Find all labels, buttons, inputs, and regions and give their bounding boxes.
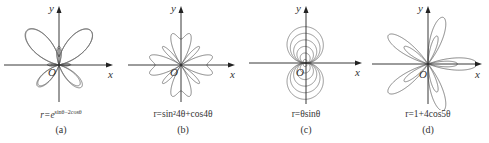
y-axis-label: y: [171, 2, 176, 14]
y-axis-arrow-icon: [179, 6, 184, 13]
polar-plot-b: [122, 0, 244, 110]
x-axis-arrow-icon: [475, 62, 482, 67]
x-axis-arrow-icon: [228, 63, 235, 68]
caption-b: (b): [122, 124, 244, 135]
formula-c: r=θsinθ: [245, 109, 367, 119]
axes-a: [4, 6, 113, 102]
formula-b: r=sin²4θ+cos4θ: [122, 109, 244, 119]
axes-c: [249, 6, 362, 104]
panel-b: y x O r=sin²4θ+cos4θ (b): [122, 0, 244, 143]
y-axis-arrow-icon: [304, 6, 309, 13]
formula-exponent: sinθ−2cosθ: [55, 109, 82, 115]
polar-plot-a: [0, 0, 122, 110]
caption-c: (c): [245, 124, 367, 135]
x-axis-arrow-icon: [355, 61, 362, 66]
origin-label: O: [170, 66, 178, 78]
y-axis-arrow-icon: [426, 6, 431, 13]
x-axis-label: x: [475, 68, 480, 80]
origin-label: O: [296, 66, 304, 78]
y-axis-label: y: [296, 2, 301, 14]
panel-d: y x O r=1+4cos5θ (d): [364, 0, 486, 143]
x-axis-label: x: [108, 68, 113, 80]
caption-d: (d): [367, 124, 489, 135]
formula-lhs: r=: [40, 110, 50, 120]
formula-a: r=esinθ−2cosθ: [0, 109, 122, 120]
polar-plot-d: [364, 0, 489, 110]
y-axis-label: y: [49, 2, 54, 14]
x-axis-label: x: [355, 66, 360, 78]
formula-d: r=1+4cos5θ: [367, 109, 489, 119]
origin-label: O: [419, 68, 427, 80]
y-axis-arrow-icon: [57, 6, 62, 13]
panel-a: y x O r=esinθ−2cosθ (a): [0, 0, 122, 143]
axes-b: [128, 6, 235, 102]
y-axis-label: y: [418, 2, 423, 14]
panel-c: y x O r=θsinθ (c): [245, 0, 367, 143]
x-axis-arrow-icon: [106, 63, 113, 68]
polar-plot-c: [245, 0, 367, 110]
caption-a: (a): [0, 124, 122, 135]
origin-label: O: [48, 66, 56, 78]
x-axis-label: x: [230, 68, 235, 80]
